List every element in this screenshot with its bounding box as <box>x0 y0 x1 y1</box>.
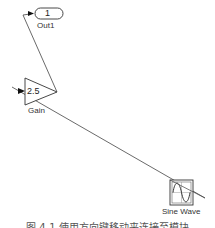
gain-value: 2.5 <box>27 86 40 96</box>
out1-label[interactable]: Out1 <box>37 21 54 30</box>
gain-label[interactable]: Gain <box>28 106 45 115</box>
out1-port-number: 1 <box>45 8 50 18</box>
sine-wave-label[interactable]: Sine Wave <box>162 207 200 216</box>
sine-wave-block[interactable] <box>170 180 205 205</box>
figure-caption: 图 4-1 使用方向键移动来连接至模块 <box>0 219 215 228</box>
